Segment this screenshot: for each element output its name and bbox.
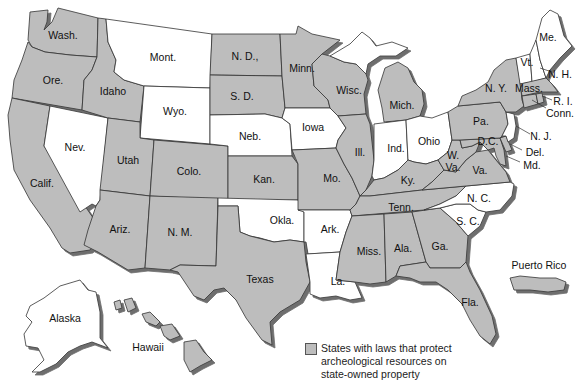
legend-line-2: archeological resources on (321, 355, 511, 368)
label-va: Va. (473, 165, 488, 176)
label-ariz: Ariz. (110, 224, 131, 235)
label-iowa: Iowa (302, 122, 324, 133)
state-hawaii-big (184, 340, 212, 372)
label-miss: Miss. (357, 246, 382, 257)
label-puerto-rico: Puerto Rico (512, 260, 567, 271)
label-minn: Minn. (289, 63, 315, 74)
label-okla: Okla. (270, 215, 295, 226)
label-ga: Ga. (432, 241, 449, 252)
label-wva-1: W. (447, 150, 459, 161)
label-me: Me. (539, 32, 557, 43)
state-hawaii-kauai (114, 300, 122, 310)
label-colo: Colo. (177, 166, 202, 177)
label-utah: Utah (117, 155, 139, 166)
label-ohio: Ohio (418, 136, 440, 147)
leader-nj (516, 126, 530, 134)
label-ark: Ark. (321, 224, 340, 235)
label-sd: S. D. (230, 91, 253, 102)
label-md: Md. (523, 160, 541, 171)
label-ind: Ind. (387, 143, 405, 154)
state-hawaii-maui (160, 324, 180, 340)
label-tenn: Tenn. (388, 202, 414, 213)
label-wyo: Wyo. (163, 106, 187, 117)
label-dc: D.C. (478, 136, 499, 147)
label-texas: Texas (246, 274, 273, 285)
label-nd: N. D., (232, 51, 259, 62)
label-ky: Ky. (401, 175, 415, 186)
label-ill: Ill. (355, 147, 366, 158)
label-ore: Ore. (43, 75, 63, 86)
state-hawaii-oahu (124, 298, 136, 312)
label-nj: N. J. (530, 131, 552, 142)
label-nm: N. M. (167, 227, 192, 238)
label-neb: Neb. (239, 131, 261, 142)
label-wva-2: Va. (446, 162, 461, 173)
label-ny: N. Y. (485, 83, 507, 94)
label-mich: Mich. (389, 100, 414, 111)
label-wash: Wash. (48, 30, 77, 41)
label-mo: Mo. (323, 173, 341, 184)
label-hawaii: Hawaii (132, 342, 164, 353)
label-mont: Mont. (150, 52, 176, 63)
label-nev: Nev. (65, 142, 86, 153)
label-vt: Vt. (521, 57, 534, 68)
state-conn (522, 94, 538, 108)
label-nc: N. C. (467, 193, 491, 204)
label-kan: Kan. (253, 174, 275, 185)
label-idaho: Idaho (100, 86, 126, 97)
label-fla: Fla. (461, 297, 479, 308)
label-pa: Pa. (473, 116, 489, 127)
label-conn: Conn. (546, 108, 574, 119)
label-sc: S. C. (456, 216, 479, 227)
label-alaska: Alaska (49, 313, 81, 324)
state-fla (396, 262, 496, 344)
label-la: La. (331, 276, 346, 287)
leader-md (506, 156, 520, 162)
legend-line-1: States with laws that protect (321, 342, 511, 355)
legend-swatch-protected (305, 343, 317, 355)
label-wisc: Wisc. (336, 85, 362, 96)
legend-line-3: state-owned property (321, 368, 511, 381)
label-del: Del. (526, 147, 545, 158)
label-ri: R. I. (553, 96, 572, 107)
state-alaska (24, 280, 108, 372)
state-mich (378, 62, 424, 122)
label-nh: N. H. (548, 69, 572, 80)
label-mass: Mass. (515, 83, 543, 94)
territory-puerto-rico (510, 276, 566, 292)
state-hawaii-molokai (142, 312, 160, 326)
label-calif: Calif. (30, 178, 54, 189)
label-ala: Ala. (394, 243, 412, 254)
legend-text: States with laws that protect archeologi… (321, 342, 511, 381)
